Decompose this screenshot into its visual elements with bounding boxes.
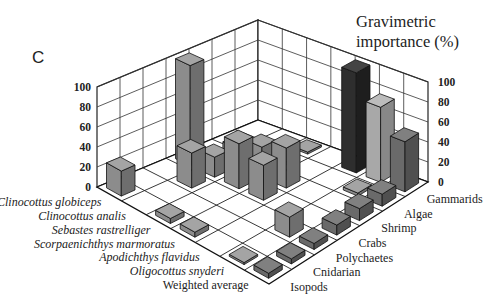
species-label: Clinocottus analis: [38, 209, 126, 223]
bar: [177, 139, 205, 188]
prey-label: Polychaetes: [336, 251, 394, 265]
z-tick-left: 0: [85, 181, 91, 193]
species-label: Scorpaenichthys marmoratus: [34, 237, 175, 251]
prey-label: Shrimp: [381, 221, 416, 235]
z-tick-right: 0: [438, 176, 444, 188]
bar-chart-3d: 002020404060608080100100Clinocottus glob…: [0, 0, 485, 303]
z-tick-left: 40: [80, 141, 92, 153]
z-tick-right: 20: [438, 156, 450, 168]
z-tick-right: 60: [438, 116, 450, 128]
z-tick-left: 60: [80, 121, 92, 133]
prey-label: Gammarids: [427, 192, 483, 206]
bar: [390, 128, 418, 192]
species-label: Weighted average: [163, 278, 249, 292]
species-label: Clinocottus globiceps: [0, 195, 102, 209]
species-label: Apodichthys flavidus: [98, 250, 200, 264]
z-tick-left: 80: [80, 101, 92, 113]
z-tick-left: 20: [80, 161, 92, 173]
species-label: Oligocottus snyderi: [130, 264, 224, 278]
bar: [107, 157, 136, 196]
z-tick-right: 80: [438, 96, 450, 108]
prey-label: Isopods: [290, 280, 328, 294]
prey-label: Algae: [404, 207, 433, 221]
z-tick-right: 100: [438, 76, 456, 88]
prey-label: Cnidarian: [313, 265, 360, 279]
species-label: Sebastes rastrelliger: [52, 223, 151, 237]
prey-label: Crabs: [359, 236, 387, 250]
z-tick-left: 100: [74, 81, 92, 93]
bar: [249, 151, 277, 200]
z-tick-right: 40: [438, 136, 450, 148]
bar: [275, 202, 303, 237]
